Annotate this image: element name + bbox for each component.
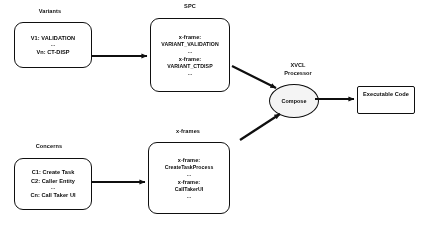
xvcl-processor-label: XVCL Processor: [273, 62, 323, 77]
xvcl-processor-label-line1: XVCL: [273, 62, 323, 70]
executable-code-label: Executable Code: [363, 90, 409, 98]
spc-xframe-box: x-frame: VARIANT_VALIDATION ... x-frame:…: [150, 18, 230, 92]
xframes-header-label: x-frames: [158, 128, 218, 134]
xframes-line-2-key: x-frame:: [178, 178, 200, 186]
executable-code-box: Executable Code: [357, 86, 415, 114]
arrow-xframes-to-compose: [240, 114, 280, 140]
concerns-line-1: C1: Create Task: [32, 168, 75, 176]
spc-header-label: SPC: [160, 3, 220, 9]
xframes-line-1-key: x-frame:: [178, 156, 200, 164]
variants-line-2: Vn: CT-DISP: [36, 48, 69, 56]
concerns-header-label: Concerns: [16, 143, 82, 149]
arrow-spc-to-compose: [232, 66, 276, 88]
variants-header-label: Variants: [18, 8, 82, 14]
concerns-line-3: Cn: Call Taker UI: [30, 191, 75, 199]
xframes-ellipsis-2: ...: [187, 194, 192, 200]
spc-line-1-key: x-frame:: [179, 33, 201, 41]
concerns-box: C1: Create Task C2: Caller Entity ... Cn…: [14, 158, 92, 210]
variants-box: V1: VALIDATION ... Vn: CT-DISP: [14, 22, 92, 68]
compose-node: Compose: [269, 84, 319, 118]
spc-line-2-key: x-frame:: [179, 55, 201, 63]
xvcl-processor-label-line2: Processor: [273, 70, 323, 78]
diagram-canvas: Variants SPC x-frames Concerns V1: VALID…: [0, 0, 422, 233]
spc-ellipsis-2: ...: [188, 71, 193, 77]
compose-node-label: Compose: [282, 97, 307, 105]
xframes-box: x-frame: CreateTaskProcess ... x-frame: …: [148, 142, 230, 214]
